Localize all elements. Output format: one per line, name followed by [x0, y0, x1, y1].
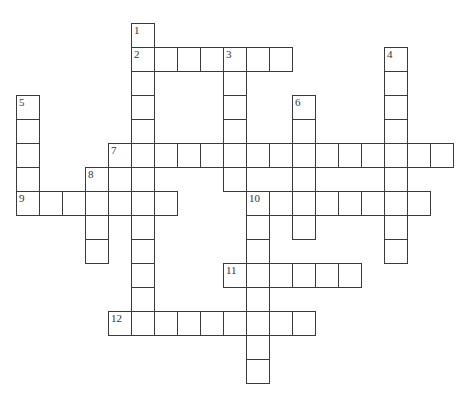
crossword-cell[interactable]	[16, 119, 40, 144]
crossword-cell[interactable]	[131, 95, 155, 120]
crossword-cell[interactable]	[131, 71, 155, 96]
crossword-cell[interactable]: 10	[246, 191, 270, 216]
clue-number: 12	[111, 313, 122, 324]
clue-number: 9	[19, 193, 25, 204]
crossword-cell[interactable]	[384, 71, 408, 96]
crossword-cell[interactable]	[292, 119, 316, 144]
crossword-cell[interactable]: 5	[16, 95, 40, 120]
crossword-cell[interactable]	[292, 167, 316, 192]
crossword-cell[interactable]	[223, 143, 247, 168]
crossword-cell[interactable]	[154, 191, 178, 216]
crossword-cell[interactable]	[177, 143, 201, 168]
crossword-cell[interactable]	[85, 191, 109, 216]
crossword-cell[interactable]	[131, 143, 155, 168]
crossword-cell[interactable]	[269, 143, 293, 168]
crossword-cell[interactable]	[315, 191, 339, 216]
crossword-cell[interactable]	[430, 143, 454, 168]
crossword-cell[interactable]	[131, 167, 155, 192]
crossword-cell[interactable]	[315, 143, 339, 168]
crossword-cell[interactable]	[131, 119, 155, 144]
crossword-cell[interactable]	[246, 239, 270, 264]
crossword-cell[interactable]	[384, 95, 408, 120]
crossword-cell[interactable]	[292, 143, 316, 168]
crossword-grid: 123459678101112	[0, 0, 467, 399]
crossword-cell[interactable]	[292, 263, 316, 288]
crossword-cell[interactable]: 2	[131, 47, 155, 72]
crossword-cell[interactable]	[407, 143, 431, 168]
crossword-cell[interactable]	[39, 191, 63, 216]
crossword-cell[interactable]	[223, 119, 247, 144]
crossword-cell[interactable]	[338, 263, 362, 288]
crossword-cell[interactable]	[384, 215, 408, 240]
crossword-cell[interactable]: 8	[85, 167, 109, 192]
crossword-cell[interactable]: 12	[108, 311, 132, 336]
crossword-cell[interactable]	[361, 143, 385, 168]
clue-number: 5	[19, 97, 25, 108]
crossword-cell[interactable]	[269, 263, 293, 288]
clue-number: 3	[226, 49, 232, 60]
crossword-cell[interactable]	[62, 191, 86, 216]
crossword-cell[interactable]	[200, 143, 224, 168]
crossword-cell[interactable]	[246, 263, 270, 288]
crossword-cell[interactable]	[246, 359, 270, 384]
crossword-cell[interactable]	[200, 311, 224, 336]
crossword-cell[interactable]	[16, 167, 40, 192]
crossword-cell[interactable]: 9	[16, 191, 40, 216]
crossword-cell[interactable]	[223, 311, 247, 336]
crossword-cell[interactable]	[200, 47, 224, 72]
clue-number: 8	[88, 169, 94, 180]
crossword-cell[interactable]	[246, 215, 270, 240]
crossword-cell[interactable]	[246, 143, 270, 168]
crossword-cell[interactable]	[85, 215, 109, 240]
crossword-cell[interactable]	[384, 119, 408, 144]
crossword-cell[interactable]	[338, 191, 362, 216]
crossword-cell[interactable]	[131, 215, 155, 240]
crossword-cell[interactable]	[131, 263, 155, 288]
crossword-cell[interactable]	[384, 143, 408, 168]
clue-number: 1	[134, 25, 140, 36]
crossword-cell[interactable]	[384, 239, 408, 264]
crossword-cell[interactable]	[154, 47, 178, 72]
crossword-cell[interactable]	[177, 311, 201, 336]
crossword-cell[interactable]	[361, 191, 385, 216]
crossword-cell[interactable]	[223, 71, 247, 96]
clue-number: 6	[295, 97, 301, 108]
crossword-cell[interactable]	[269, 311, 293, 336]
clue-number: 11	[226, 265, 237, 276]
crossword-cell[interactable]	[154, 311, 178, 336]
crossword-cell[interactable]	[292, 311, 316, 336]
crossword-cell[interactable]	[338, 143, 362, 168]
crossword-cell[interactable]	[154, 143, 178, 168]
crossword-cell[interactable]	[407, 191, 431, 216]
crossword-cell[interactable]	[269, 191, 293, 216]
crossword-cell[interactable]	[246, 311, 270, 336]
crossword-cell[interactable]: 3	[223, 47, 247, 72]
crossword-cell[interactable]	[108, 191, 132, 216]
crossword-cell[interactable]	[177, 47, 201, 72]
crossword-cell[interactable]: 6	[292, 95, 316, 120]
crossword-cell[interactable]: 7	[108, 143, 132, 168]
crossword-cell[interactable]: 4	[384, 47, 408, 72]
crossword-cell[interactable]	[292, 191, 316, 216]
crossword-cell[interactable]	[131, 287, 155, 312]
crossword-cell[interactable]	[131, 239, 155, 264]
crossword-cell[interactable]	[384, 167, 408, 192]
crossword-cell[interactable]	[384, 191, 408, 216]
crossword-cell[interactable]	[223, 167, 247, 192]
crossword-cell[interactable]	[246, 335, 270, 360]
crossword-cell[interactable]	[16, 143, 40, 168]
crossword-cell[interactable]	[246, 287, 270, 312]
clue-number: 10	[249, 193, 260, 204]
crossword-cell[interactable]: 11	[223, 263, 247, 288]
crossword-cell[interactable]	[85, 239, 109, 264]
crossword-cell[interactable]	[131, 311, 155, 336]
crossword-cell[interactable]	[269, 47, 293, 72]
clue-number: 2	[134, 49, 140, 60]
crossword-cell[interactable]	[292, 215, 316, 240]
clue-number: 7	[111, 145, 117, 156]
crossword-cell[interactable]	[131, 191, 155, 216]
crossword-cell[interactable]: 1	[131, 23, 155, 48]
crossword-cell[interactable]	[315, 263, 339, 288]
crossword-cell[interactable]	[223, 95, 247, 120]
crossword-cell[interactable]	[246, 47, 270, 72]
